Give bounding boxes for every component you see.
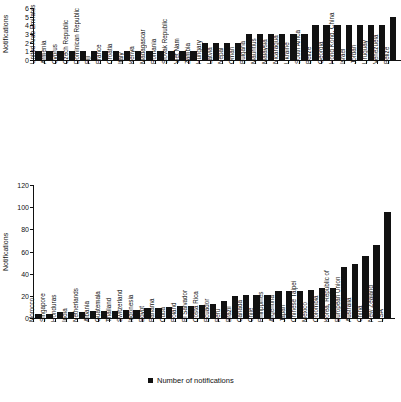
x-tick-label: Malaysia: [262, 39, 268, 64]
x-tick-label: Uruguay: [362, 40, 368, 64]
x-tick-label-slot: Egypt: [142, 322, 153, 374]
x-tick-label: Ukraine: [284, 42, 290, 64]
x-tick-label-slot: Chinese Taipei: [295, 322, 306, 374]
x-tick-label-slot: China: [360, 322, 371, 374]
x-tick-label: China: [356, 306, 362, 322]
x-tick-label: Latvia: [206, 47, 212, 64]
x-tick-label-slot: Netherlands: [77, 322, 88, 374]
x-tick-label-slot: Viet Nam: [177, 64, 188, 162]
x-tick-label-slot: Kenya: [133, 64, 144, 162]
x-tick-label-slot: Belize: [388, 64, 399, 162]
x-tick-label-slot: Chile: [251, 322, 262, 374]
x-tick-label-slot: Zambia: [188, 64, 199, 162]
x-tick-label: Korea, Republic of: [324, 270, 330, 322]
x-tick-label: Canada: [236, 300, 242, 322]
x-tick-label: Albania: [84, 301, 90, 322]
x-tick-label: Cuba: [160, 307, 166, 322]
x-tick-label-slot: United Arab Emirates: [33, 64, 44, 162]
legend-swatch-icon: [148, 378, 153, 383]
x-tick-label: Thailand: [106, 298, 112, 322]
x-tick-label: New Zealand: [367, 285, 373, 322]
x-tick-label-slot: Colombia: [317, 322, 328, 374]
x-tick-label: Viet Nam: [173, 38, 179, 64]
x-tick-label-slot: Peru: [218, 322, 229, 374]
x-tick-label-slot: Fiji: [88, 64, 99, 162]
x-tick-label: Nicaragua: [273, 35, 279, 64]
x-tick-label: Zambia: [184, 43, 190, 64]
x-tick-label-slot: Mexico: [306, 322, 317, 374]
x-tick-label-slot: Korea, Republic of: [327, 322, 338, 374]
x-tick-label: Philippines: [258, 292, 264, 322]
x-tick-label: Venezuela: [373, 35, 379, 64]
x-tick-label-slot: Malaysia: [266, 64, 277, 162]
x-tick-label-slot: Switzerland: [120, 322, 131, 374]
x-tick-label-slot: Morocco: [33, 322, 44, 374]
x-tick-label-slot: Honduras: [55, 322, 66, 374]
x-tick-label: South Africa: [295, 30, 301, 64]
x-tick-label-slot: Canada: [240, 322, 251, 374]
x-tick-label: Guatemala: [95, 291, 101, 322]
x-tick-label: European Union: [335, 276, 341, 322]
bar: [373, 245, 379, 318]
x-tick-label: USA: [378, 309, 384, 322]
legend-label: Number of notifications: [157, 376, 234, 385]
x-tick-label-slot: Indonesia: [131, 322, 142, 374]
x-tick-label-slot: European Union: [338, 322, 349, 374]
x-tick-label: Belize: [306, 47, 312, 64]
y-tick-label: 40: [21, 270, 29, 277]
bar: [390, 17, 396, 60]
x-tick-label-slot: Jordan: [354, 64, 365, 162]
x-tick-label: Romania: [151, 39, 157, 64]
x-tick-label: Italy: [118, 52, 124, 64]
chart-bottom-legend: Number of notifications: [148, 376, 234, 385]
x-tick-label-slot: Latvia: [210, 64, 221, 162]
x-tick-label-slot: Hong Kong, China: [332, 64, 343, 162]
x-tick-label-slot: Cyprus: [55, 64, 66, 162]
x-tick-label: Egypt: [138, 306, 144, 322]
y-tick-label: 120: [17, 182, 29, 189]
x-tick-label-slot: Ukraine: [288, 64, 299, 162]
x-tick-label-slot: Dominican Republic: [77, 64, 88, 162]
x-tick-label-slot: Japan: [284, 322, 295, 374]
figure-root: Notifications 0123456 United Arab Emirat…: [0, 0, 401, 402]
x-tick-label: Fiji: [85, 56, 91, 64]
x-tick-label-slot: Ecuador: [208, 322, 219, 374]
x-tick-label-slot: Croatia: [111, 64, 122, 162]
x-tick-label: Israel: [339, 49, 345, 64]
x-tick-label: Argentina: [269, 295, 275, 322]
x-tick-label: Belize: [384, 47, 390, 64]
x-tick-label-slot: Thailand: [109, 322, 120, 374]
x-tick-label: Madagascar: [140, 29, 146, 64]
x-tick-label-slot: Georgia: [321, 64, 332, 162]
x-tick-label-slot: Argentina: [273, 322, 284, 374]
x-tick-label: Mexico: [302, 302, 308, 322]
x-tick-label-slot: New Zealand: [371, 322, 382, 374]
x-tick-label: Croatia: [107, 44, 113, 64]
x-tick-label: Hungary: [195, 40, 201, 64]
chart-bottom: Notifications 020406080100120 MoroccoSin…: [0, 180, 401, 402]
x-tick-label-slot: Guatemala: [98, 322, 109, 374]
x-tick-label-slot: El Salvador: [186, 322, 197, 374]
y-tick-label: 60: [21, 248, 29, 255]
x-tick-label: Cyprus: [51, 44, 57, 64]
x-tick-label-slot: Brazil: [229, 322, 240, 374]
chart-bottom-x-tick-labels: MoroccoSingaporeHondurasIndiaNetherlands…: [33, 322, 393, 374]
x-tick-label: Bulgaria: [240, 41, 246, 64]
y-tick-label: 100: [17, 204, 29, 211]
x-tick-label-slot: Italy: [122, 64, 133, 162]
x-tick-label-slot: South Africa: [299, 64, 310, 162]
x-tick-label: India: [62, 308, 68, 322]
x-tick-label-slot: Mauritius: [255, 64, 266, 162]
x-tick-label-slot: Hungary: [199, 64, 210, 162]
x-tick-label: Czech Republic: [62, 20, 68, 64]
x-tick-label-slot: Venezuela: [376, 64, 387, 162]
x-tick-label: Costa Rica: [193, 291, 199, 322]
x-tick-label-slot: Czech Republic: [66, 64, 77, 162]
x-tick-label-slot: Philippines: [262, 322, 273, 374]
x-tick-label: Switzerland: [116, 289, 122, 322]
x-tick-label: El Salvador: [182, 290, 188, 322]
x-tick-label: Netherlands: [73, 288, 79, 322]
x-tick-label-slot: Poland: [175, 322, 186, 374]
x-tick-label: Australia: [345, 298, 351, 323]
x-tick-label: Kenya: [129, 46, 135, 64]
